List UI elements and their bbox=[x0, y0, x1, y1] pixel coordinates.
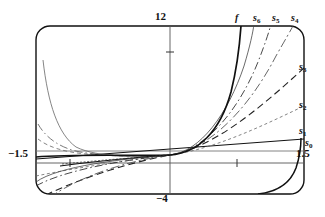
curve-s5 bbox=[36, 24, 271, 186]
curve-label-s5: s5 bbox=[272, 13, 279, 23]
axis-label-right: 1.5 bbox=[296, 148, 310, 159]
axis-label-bottom: −4 bbox=[156, 193, 168, 204]
curve-label-s6-sub: 6 bbox=[257, 17, 261, 25]
axis-label-left: −1.5 bbox=[8, 148, 28, 159]
axis-label-top: 12 bbox=[155, 11, 166, 22]
curve-label-s3-sub: 3 bbox=[303, 66, 307, 74]
curve-label-s2: s2 bbox=[299, 100, 306, 110]
curve-label-s3: s3 bbox=[299, 62, 306, 72]
curve-label-s2-sub: 2 bbox=[303, 104, 307, 112]
figure-container: 12 −4 −1.5 1.5 f s6 s5 s4 s3 s2 s1 s0 bbox=[0, 0, 325, 217]
curve-label-s6: s6 bbox=[253, 13, 260, 23]
curve-f-lower-branch bbox=[258, 138, 301, 194]
curve-label-f: f bbox=[235, 13, 238, 23]
curve-label-s4-sub: 4 bbox=[295, 17, 299, 25]
curve-s6-left-branch bbox=[43, 60, 170, 156]
curve-label-s5-sub: 5 bbox=[276, 17, 280, 25]
plot-canvas bbox=[0, 0, 325, 217]
curve-label-s0: s0 bbox=[305, 138, 312, 148]
curve-label-s1: s1 bbox=[299, 126, 306, 136]
curve-s4 bbox=[36, 24, 294, 208]
curve-label-s4: s4 bbox=[291, 13, 298, 23]
curve-label-f-text: f bbox=[235, 12, 238, 23]
curve-label-s0-sub: 0 bbox=[309, 142, 313, 150]
